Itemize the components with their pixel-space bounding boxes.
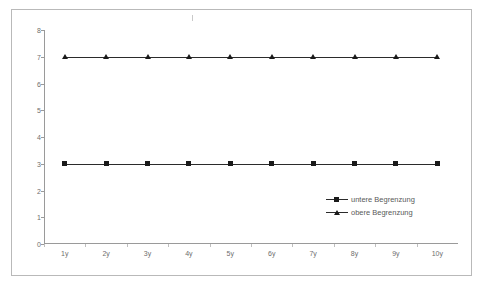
data-point-marker bbox=[62, 161, 67, 166]
y-tick-mark bbox=[41, 164, 44, 165]
data-point-marker bbox=[62, 54, 68, 59]
chart-legend: untere Begrenzung obere Begrenzung bbox=[326, 193, 438, 219]
series-line bbox=[313, 57, 354, 58]
y-tick-label: 7 bbox=[25, 53, 41, 60]
legend-label: obere Begrenzung bbox=[348, 208, 413, 217]
legend-item-untere-begrenzung[interactable]: untere Begrenzung bbox=[326, 193, 438, 206]
series-line bbox=[65, 164, 106, 165]
data-point-marker bbox=[186, 161, 191, 166]
data-point-marker bbox=[393, 161, 398, 166]
x-tick-label: 10y bbox=[417, 250, 457, 258]
legend-item-obere-begrenzung[interactable]: obere Begrenzung bbox=[326, 206, 438, 219]
y-tick-label: 3 bbox=[25, 160, 41, 167]
series-line bbox=[272, 57, 313, 58]
y-tick-mark bbox=[41, 217, 44, 218]
caption-strip bbox=[0, 289, 484, 298]
data-point-marker bbox=[269, 54, 275, 59]
data-point-marker bbox=[311, 161, 316, 166]
x-tick-mark bbox=[85, 244, 86, 247]
legend-label: untere Begrenzung bbox=[348, 195, 415, 204]
x-tick-label: 3y bbox=[128, 250, 168, 258]
x-tick-mark bbox=[417, 244, 418, 247]
series-line bbox=[189, 57, 230, 58]
x-tick-label: 1y bbox=[45, 250, 85, 258]
x-tick-label: 7y bbox=[293, 250, 333, 258]
data-point-marker bbox=[145, 161, 150, 166]
y-tick-label: 5 bbox=[25, 107, 41, 114]
series-line bbox=[355, 57, 396, 58]
x-tick-label: 6y bbox=[252, 250, 292, 258]
series-line bbox=[230, 57, 271, 58]
x-tick-label: 8y bbox=[335, 250, 375, 258]
data-point-marker bbox=[352, 161, 357, 166]
y-tick-label: 8 bbox=[25, 27, 41, 34]
y-tick-label: 1 bbox=[25, 214, 41, 221]
x-tick-mark bbox=[292, 244, 293, 247]
x-tick-mark bbox=[210, 244, 211, 247]
y-tick-label: 0 bbox=[25, 241, 41, 248]
data-point-marker bbox=[434, 54, 440, 59]
data-point-marker bbox=[103, 54, 109, 59]
series-line bbox=[355, 164, 396, 165]
series-line bbox=[106, 57, 147, 58]
chart-top-handle bbox=[192, 15, 193, 21]
legend-marker-square-icon bbox=[326, 195, 348, 204]
x-tick-label: 4y bbox=[169, 250, 209, 258]
data-point-marker bbox=[393, 54, 399, 59]
y-tick-mark bbox=[41, 191, 44, 192]
y-tick-mark bbox=[41, 57, 44, 58]
data-point-marker bbox=[228, 161, 233, 166]
x-tick-label: 2y bbox=[86, 250, 126, 258]
legend-marker-triangle-icon bbox=[326, 208, 348, 217]
data-point-marker bbox=[227, 54, 233, 59]
x-tick-mark bbox=[44, 244, 45, 247]
y-tick-mark bbox=[41, 110, 44, 111]
y-tick-label: 6 bbox=[25, 80, 41, 87]
x-tick-mark bbox=[375, 244, 376, 247]
series-line bbox=[106, 164, 147, 165]
data-point-marker bbox=[310, 54, 316, 59]
x-tick-label: 9y bbox=[376, 250, 416, 258]
y-tick-mark bbox=[41, 30, 44, 31]
data-point-marker bbox=[352, 54, 358, 59]
data-point-marker bbox=[186, 54, 192, 59]
series-line bbox=[230, 164, 271, 165]
series-line bbox=[189, 164, 230, 165]
data-point-marker bbox=[435, 161, 440, 166]
y-tick-label: 4 bbox=[25, 134, 41, 141]
y-axis: 012345678 bbox=[20, 0, 41, 298]
x-tick-mark bbox=[334, 244, 335, 247]
series-line bbox=[65, 57, 106, 58]
series-line bbox=[148, 57, 189, 58]
x-tick-mark bbox=[127, 244, 128, 247]
data-point-marker bbox=[104, 161, 109, 166]
data-point-marker bbox=[145, 54, 151, 59]
y-tick-mark bbox=[41, 84, 44, 85]
y-tick-mark bbox=[41, 137, 44, 138]
x-tick-mark bbox=[251, 244, 252, 247]
x-tick-mark bbox=[168, 244, 169, 247]
series-line bbox=[272, 164, 313, 165]
series-line bbox=[313, 164, 354, 165]
data-point-marker bbox=[269, 161, 274, 166]
series-line bbox=[396, 164, 437, 165]
series-line bbox=[148, 164, 189, 165]
x-tick-label: 5y bbox=[210, 250, 250, 258]
series-line bbox=[396, 57, 437, 58]
y-tick-label: 2 bbox=[25, 187, 41, 194]
